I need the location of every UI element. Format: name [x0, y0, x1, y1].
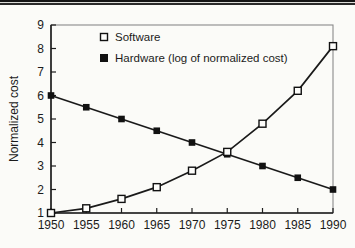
x-tick-label: 1950 — [38, 218, 65, 232]
software-data-point-marker — [83, 205, 90, 212]
x-tick-label: 1980 — [249, 218, 276, 232]
hardware-data-point-marker — [259, 163, 266, 170]
software-data-point-marker — [294, 87, 301, 94]
legend: Software Hardware (log of normalized cos… — [101, 31, 288, 64]
y-tick-label: 7 — [37, 65, 44, 79]
software-data-point-marker — [189, 167, 196, 174]
line-chart-canvas: 1234567891950195519601965197019751980198… — [0, 6, 355, 248]
hardware-data-point-marker — [48, 92, 55, 99]
y-tick-label: 5 — [37, 112, 44, 126]
hardware-data-point-marker — [118, 116, 125, 123]
hardware-data-point-marker — [189, 139, 196, 146]
hardware-data-point-marker — [153, 127, 160, 134]
hardware-data-point-marker — [83, 104, 90, 111]
software-data-point-marker — [153, 184, 160, 191]
x-tick-label: 1965 — [143, 218, 170, 232]
hardware-data-point-marker — [294, 174, 301, 181]
y-tick-label: 9 — [37, 18, 44, 32]
y-axis-title: Normalized cost — [7, 75, 21, 162]
scanned-figure-page: 1234567891950195519601965197019751980198… — [0, 0, 355, 248]
legend-label-software: Software — [115, 31, 160, 43]
hardware-filled-square-icon — [101, 55, 108, 62]
y-tick-label: 2 — [37, 183, 44, 197]
software-open-square-icon — [101, 34, 108, 41]
x-tick-label: 1960 — [108, 218, 135, 232]
y-tick-label: 6 — [37, 89, 44, 103]
software-data-point-marker — [118, 195, 125, 202]
hardware-data-point-marker — [330, 186, 337, 193]
x-tick-label: 1985 — [284, 218, 311, 232]
software-data-point-marker — [330, 43, 337, 50]
y-tick-label: 3 — [37, 159, 44, 173]
software-data-point-marker — [259, 120, 266, 127]
x-tick-label: 1955 — [73, 218, 100, 232]
y-tick-label: 8 — [37, 42, 44, 56]
x-tick-label: 1970 — [179, 218, 206, 232]
y-tick-label: 4 — [37, 136, 44, 150]
x-tick-label: 1990 — [320, 218, 347, 232]
x-tick-label: 1975 — [214, 218, 241, 232]
data-series — [48, 43, 337, 217]
software-data-point-marker — [224, 148, 231, 155]
axis-ticks: 1234567891950195519601965197019751980198… — [37, 18, 346, 232]
legend-label-hardware: Hardware (log of normalized cost) — [115, 52, 288, 64]
software-series-line — [51, 46, 333, 213]
cost-trend-chart: 1234567891950195519601965197019751980198… — [0, 6, 355, 248]
software-data-point-marker — [48, 210, 55, 217]
